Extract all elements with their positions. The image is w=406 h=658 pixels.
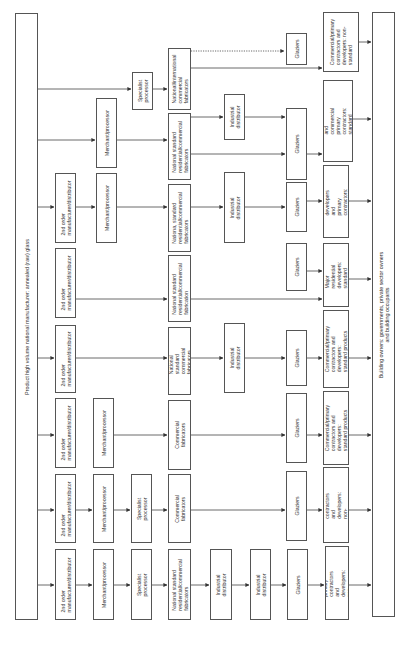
node-residential-developers-commercial-contractors: Residential developers and commercial pr… [323, 80, 353, 162]
node-label: Specialist processor [137, 80, 149, 103]
node-label: Merchant/processor [101, 562, 107, 608]
node-label: Industrial distributor [255, 573, 267, 596]
node-2nd-order-manufacturer: 2nd order manufacturer/distributor [55, 398, 76, 468]
node-residential-developers-contractors-standard: Residential developers and primary contr… [323, 165, 349, 238]
node-label: 2nd order manufacturer/distributor [60, 181, 72, 236]
node-merchant-processor: Merchant/processor [93, 549, 114, 620]
node-industrial-distributor: Industrial distributor [250, 549, 271, 620]
node-label: Glaziers [294, 348, 300, 367]
node-label: Merchant/processor [101, 486, 107, 532]
node-industrial-distributor: Industrial distributor [224, 172, 245, 243]
node-glaziers: Glaziers [286, 243, 307, 291]
node-glaziers: Glaziers [286, 182, 307, 232]
node-label: Major residential developers: standard [324, 262, 348, 289]
node-national-standard-fabricators: National standard residential/commercial… [168, 549, 191, 620]
node-2nd-order-manufacturer: 2nd order manufacturer/distributor [55, 474, 76, 543]
node-national-standard-fabricators: Nationa, standard residential/commercial… [168, 184, 191, 252]
node-label: 2nd order manufacturer/distributor [60, 406, 72, 461]
node-national-standard-fabricators: National standard residential/commercial… [168, 113, 191, 180]
node-label: National standard residential/commercial… [171, 559, 189, 611]
node-label: Glaziers [294, 134, 300, 153]
node-label: Commercial/primary contractors and devel… [329, 19, 353, 65]
node-label: Industrial distributor [229, 347, 241, 370]
node-2nd-order-manufacturer: 2nd order manufacturer/distributor [55, 549, 76, 620]
node-commercial-fabricators: Commercial fabricators [168, 400, 191, 470]
node-label: Glaziers [295, 575, 301, 594]
node-label: Residential developers and commercial pr… [323, 107, 353, 134]
node-national-international-fabricators: National/international commercial fabric… [168, 48, 191, 110]
node-2nd-order-manufacturer: 2nd order manufacturer/distributor [55, 325, 76, 393]
node-label: Industrial distributor [229, 106, 241, 129]
node-national-standard-commercial-fabricators: National standard commercial fabricators [168, 327, 191, 395]
node-label: Merchant/processor [104, 185, 110, 231]
node-label: Commercial fabricators [174, 421, 186, 449]
node-industrial-distributor: Industrial distributor [224, 94, 245, 140]
node-national-standard-fabrication: National standard residential/commercial… [168, 255, 191, 322]
node-commercial-contractors-nonstandard: Commercial/primary contractors and devel… [323, 12, 359, 72]
node-merchant-processor: Merchant/processor [96, 173, 117, 243]
node-label: Commercial fabricators [174, 495, 186, 523]
node-label: Glaziers [294, 39, 300, 58]
node-merchant-processor: Merchant/processor [93, 474, 114, 543]
node-label: 2nd order manufacturer/distributor [60, 557, 72, 612]
node-glaziers: Glaziers [286, 471, 307, 541]
node-label: Specialist processor [136, 497, 148, 520]
node-label: Residential developers and primary contr… [323, 188, 349, 215]
node-glaziers: Glaziers [286, 330, 307, 386]
node-label: National/international commercial fabric… [171, 55, 189, 104]
node-label: 2nd order manufacturer/distributor [60, 481, 72, 536]
node-merchant-processor: Merchant/processor [93, 398, 114, 468]
node-commercial-contractors-standard: Commercial/primary contractors and devel… [323, 310, 349, 388]
node-label: Industrial distributor [215, 573, 227, 596]
node-label: 2nd order manufacturer/distributor [60, 256, 72, 311]
node-label: Specialist processor [136, 573, 148, 596]
node-label: 2nd order manufacturer/distributor [60, 332, 72, 387]
node-label: Merchant/processor [104, 110, 110, 156]
node-commercial-contractors-nonstandard: Commercial primary contractors and devel… [325, 546, 349, 620]
node-commercial-contractors-standard: Commercial/primary contractors and devel… [323, 391, 349, 465]
node-glaziers: Glaziers [286, 33, 307, 65]
node-label: Commercial/primary contractors and devel… [324, 326, 348, 372]
node-specialist-processor: Specialist processor [131, 474, 152, 543]
node-label: Nationa, standard residential/commercial… [171, 192, 189, 244]
node-industrial-distributor: Industrial distributor [210, 549, 232, 620]
node-industrial-distributor: Industrial distributor [224, 323, 245, 393]
node-2nd-order-manufacturer: 2nd order manufacturer/distributor [55, 173, 76, 243]
node-major-residential-developers: Major residential developers: standard [323, 243, 349, 307]
node-label: National standard residential/commercial… [171, 121, 189, 173]
node-label: Commercial primary contractors and devel… [325, 569, 349, 597]
node-specialist-processor: Specialist processor [131, 549, 152, 620]
node-label: Commercial primary contractors and devel… [323, 491, 349, 519]
node-label: Glaziers [294, 197, 300, 216]
node-label: Industrial distributor [229, 196, 241, 219]
node-commercial-contractors-nonstandard-products: Commercial primary contractors and devel… [323, 467, 349, 543]
node-2nd-order-manufacturer: 2nd order manufacturer/distributor [55, 248, 76, 318]
node-label: Merchant/processor [101, 410, 107, 456]
node-glaziers: Glaziers [286, 108, 307, 180]
node-glaziers: Glaziers [286, 393, 307, 463]
node-merchant-processor: Merchant/processor [96, 98, 117, 168]
node-label: Glaziers [294, 418, 300, 437]
node-label: Glaziers [294, 257, 300, 276]
node-label: National standard commercial fabricators [168, 348, 191, 375]
node-commercial-fabricators: Commercial fabricators [168, 474, 191, 543]
node-label: Glaziers [294, 496, 300, 515]
node-specialist-processor: Specialist processor [132, 72, 153, 110]
node-glaziers: Glaziers [287, 549, 308, 620]
node-label: Commercial/primary contractors and devel… [324, 405, 348, 451]
node-label: National standard residential/commercial… [171, 263, 189, 315]
